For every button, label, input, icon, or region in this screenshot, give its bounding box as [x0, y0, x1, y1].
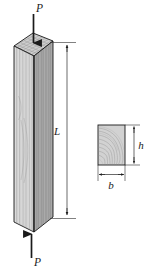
height-label: h [138, 139, 144, 151]
column-front-face [14, 46, 34, 232]
length-label: L [53, 125, 60, 137]
column-side-face [34, 41, 53, 232]
width-label: b [108, 179, 114, 191]
load-label-bottom: P [33, 256, 41, 268]
load-label-top: P [35, 2, 43, 14]
cross-section-rectangle [98, 125, 125, 165]
cross-section-shape [98, 125, 125, 165]
wood-column [14, 33, 53, 232]
wood-column-figure: P P L [0, 0, 152, 270]
figure-container: P P L [0, 0, 152, 270]
